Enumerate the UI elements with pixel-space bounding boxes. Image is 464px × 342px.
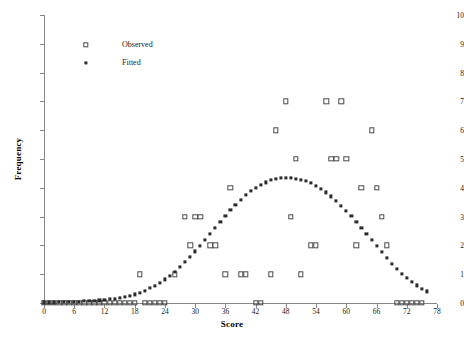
data-point-fitted (239, 198, 242, 201)
y-tick-mark (40, 15, 44, 16)
data-point-observed (293, 156, 298, 161)
y-tick-label: 10 (426, 11, 464, 20)
y-tick-label: 2 (426, 241, 464, 250)
y-axis-title: Frequency (13, 119, 23, 199)
data-point-observed (359, 185, 364, 190)
y-tick-mark (40, 188, 44, 189)
data-point-fitted (345, 209, 348, 212)
data-point-fitted (113, 297, 116, 300)
y-tick-label: 3 (426, 212, 464, 221)
data-point-fitted (133, 293, 136, 296)
data-point-fitted (284, 176, 287, 179)
data-point-fitted (259, 183, 262, 186)
data-point-fitted (249, 190, 252, 193)
y-tick-label: 8 (426, 68, 464, 77)
x-tick-label: 0 (42, 307, 46, 316)
data-point-fitted (375, 245, 378, 248)
data-point-observed (223, 271, 228, 276)
data-point-observed (258, 300, 263, 305)
y-tick-label: 0 (426, 299, 464, 308)
data-point-fitted (194, 250, 197, 253)
y-tick-label: 6 (426, 126, 464, 135)
data-point-observed (288, 214, 293, 219)
data-point-fitted (335, 199, 338, 202)
x-tick-label: 48 (282, 307, 290, 316)
data-point-fitted (244, 194, 247, 197)
data-point-fitted (314, 184, 317, 187)
x-tick-label: 60 (343, 307, 351, 316)
y-tick-mark (40, 44, 44, 45)
data-point-fitted (405, 276, 408, 279)
data-point-fitted (395, 267, 398, 270)
data-point-observed (344, 156, 349, 161)
data-point-observed (162, 300, 167, 305)
data-point-fitted (294, 177, 297, 180)
x-tick-label: 72 (403, 307, 411, 316)
data-point-fitted (365, 233, 368, 236)
legend-marker-observed (83, 42, 88, 47)
data-point-fitted (219, 220, 222, 223)
data-point-fitted (98, 299, 101, 302)
data-point-observed (313, 243, 318, 248)
y-tick-mark (40, 130, 44, 131)
x-tick-label: 6 (72, 307, 76, 316)
data-point-observed (273, 127, 278, 132)
data-point-fitted (58, 301, 61, 304)
data-point-fitted (209, 232, 212, 235)
data-point-observed (228, 185, 233, 190)
data-point-observed (243, 271, 248, 276)
data-point-fitted (52, 301, 55, 304)
data-point-fitted (309, 182, 312, 185)
data-point-fitted (183, 261, 186, 264)
scatter-chart: 012345678910 06121824303642485460667278 … (0, 0, 464, 342)
y-axis-title-wrap: Frequency (12, 0, 26, 318)
data-point-observed (379, 214, 384, 219)
data-point-observed (298, 271, 303, 276)
x-tick-label: 30 (191, 307, 199, 316)
data-point-fitted (189, 255, 192, 258)
data-point-fitted (168, 274, 171, 277)
data-point-observed (354, 243, 359, 248)
y-tick-mark (40, 245, 44, 246)
data-point-fitted (93, 299, 96, 302)
data-point-observed (187, 243, 192, 248)
y-tick-label: 1 (426, 270, 464, 279)
data-point-fitted (118, 296, 121, 299)
x-tick-label: 42 (252, 307, 260, 316)
data-point-fitted (299, 178, 302, 181)
y-tick-label: 7 (426, 97, 464, 106)
data-point-fitted (340, 204, 343, 207)
data-point-fitted (229, 209, 232, 212)
data-point-observed (369, 127, 374, 132)
data-point-fitted (279, 177, 282, 180)
data-point-fitted (269, 179, 272, 182)
data-point-fitted (138, 291, 141, 294)
data-point-fitted (425, 290, 428, 293)
data-point-fitted (420, 287, 423, 290)
data-point-fitted (370, 239, 373, 242)
data-point-fitted (153, 284, 156, 287)
data-point-fitted (360, 227, 363, 230)
x-tick-label: 18 (131, 307, 139, 316)
legend-marker-fitted (84, 61, 87, 64)
data-point-fitted (63, 301, 66, 304)
x-tick-label: 12 (101, 307, 109, 316)
data-point-fitted (123, 295, 126, 298)
data-point-fitted (199, 244, 202, 247)
y-axis-line (44, 15, 45, 303)
y-tick-label: 5 (426, 155, 464, 164)
data-point-fitted (173, 270, 176, 273)
data-point-fitted (47, 301, 50, 304)
data-point-observed (323, 99, 328, 104)
y-tick-label: 9 (426, 39, 464, 48)
data-point-observed (182, 214, 187, 219)
y-tick-label: 4 (426, 183, 464, 192)
data-point-fitted (42, 301, 45, 304)
data-point-fitted (128, 294, 131, 297)
data-point-fitted (320, 187, 323, 190)
data-point-fitted (274, 178, 277, 181)
data-point-fitted (143, 289, 146, 292)
data-point-fitted (103, 298, 106, 301)
data-point-fitted (254, 186, 257, 189)
data-point-fitted (330, 195, 333, 198)
